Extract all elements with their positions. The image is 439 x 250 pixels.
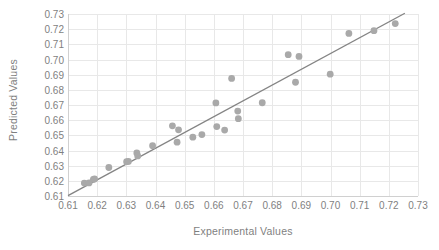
data-layer: [68, 14, 418, 196]
y-tick-label: 0.70: [24, 54, 64, 65]
y-axis-title-text: Predicted Values: [7, 59, 19, 141]
data-point: [285, 51, 292, 58]
y-tick-label: 0.68: [24, 84, 64, 95]
x-axis-tick-labels: 0.610.620.630.640.650.660.670.680.690.70…: [68, 200, 418, 216]
data-point: [327, 71, 334, 78]
data-point: [125, 158, 132, 165]
data-point: [189, 134, 196, 141]
data-point: [174, 139, 181, 146]
x-axis-title: Experimental Values: [68, 225, 418, 237]
y-tick-label: 0.64: [24, 145, 64, 156]
data-point: [169, 122, 176, 129]
data-point: [105, 164, 112, 171]
data-point: [221, 127, 228, 134]
scatter-chart: Predicted Values 0.610.620.630.640.650.6…: [0, 0, 439, 250]
y-tick-label: 0.66: [24, 115, 64, 126]
y-tick-label: 0.67: [24, 100, 64, 111]
x-axis-line: [68, 196, 418, 197]
data-point: [371, 27, 378, 34]
y-tick-label: 0.63: [24, 160, 64, 171]
data-point: [212, 99, 219, 106]
data-point: [228, 75, 235, 82]
y-tick-label: 0.69: [24, 69, 64, 80]
data-point: [134, 153, 141, 160]
data-point: [259, 99, 266, 106]
data-point: [149, 142, 156, 149]
trend-line: [68, 13, 405, 195]
y-tick-label: 0.71: [24, 39, 64, 50]
data-point: [292, 79, 299, 86]
data-point: [235, 115, 242, 122]
data-point: [296, 53, 303, 60]
data-point: [175, 126, 182, 133]
y-tick-label: 0.65: [24, 130, 64, 141]
data-point: [213, 123, 220, 130]
y-tick-label: 0.72: [24, 24, 64, 35]
y-axis-tick-labels: 0.610.620.630.640.650.660.670.680.690.70…: [22, 14, 64, 196]
plot-area: [68, 14, 418, 196]
data-point: [198, 131, 205, 138]
y-axis-title: Predicted Values: [2, 0, 24, 200]
x-tick-label: 0.73: [396, 200, 439, 211]
y-tick-label: 0.62: [24, 175, 64, 186]
data-point: [345, 30, 352, 37]
gridline-vertical: [418, 14, 419, 196]
data-point: [392, 20, 399, 27]
y-tick-label: 0.73: [24, 9, 64, 20]
data-point: [234, 108, 241, 115]
data-point: [91, 176, 98, 183]
